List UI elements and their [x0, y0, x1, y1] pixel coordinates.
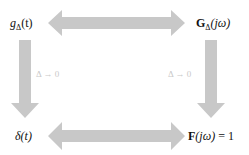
right-down-arrow — [197, 40, 225, 118]
G-symbol: G — [196, 16, 205, 30]
node-G-delta-jw: GΔ(jω) — [196, 17, 230, 32]
G-argument: (jω) — [211, 16, 231, 30]
node-g-delta-t: gΔ(t) — [10, 17, 32, 32]
F-argument: (jω) — [195, 129, 215, 143]
node-F-jw-equals-1: F(jω) = 1 — [188, 130, 234, 142]
delta-function: δ(t) — [15, 129, 32, 143]
F-rhs: = 1 — [215, 129, 234, 143]
right-limit-label: Δ → 0 — [168, 69, 191, 79]
left-down-arrow — [11, 40, 39, 118]
top-double-arrow — [48, 10, 185, 36]
g-argument: (t) — [21, 16, 32, 30]
bottom-double-arrow — [48, 122, 185, 150]
node-delta-t: δ(t) — [15, 130, 32, 142]
left-limit-label: Δ → 0 — [36, 69, 59, 79]
